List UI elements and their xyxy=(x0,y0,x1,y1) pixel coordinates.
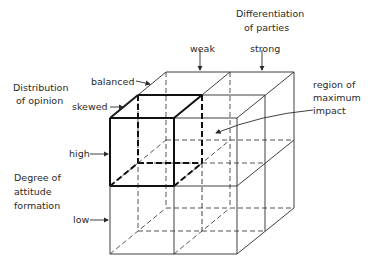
z-level-balanced: balanced xyxy=(91,76,134,88)
z-axis-title: Distribution xyxy=(13,82,68,94)
y-level-low: low xyxy=(73,214,89,226)
x-axis-title: Differentiation xyxy=(236,8,304,20)
cube-diagram xyxy=(0,0,368,267)
annotation-line3: impact xyxy=(313,105,346,117)
impact-arrow xyxy=(216,110,313,133)
x-axis-title-2: of parties xyxy=(244,22,289,34)
y-axis-title: Degree of xyxy=(14,172,61,184)
annotation-line2: maximum xyxy=(313,92,361,104)
y-axis-title-2: attitude xyxy=(14,186,52,198)
y-level-high: high xyxy=(69,148,90,160)
z-level-skewed: skewed xyxy=(72,101,108,113)
x-level-strong: strong xyxy=(250,43,280,55)
annotation-line1: region of xyxy=(313,79,355,91)
z-axis-title-2: of opinion xyxy=(16,95,63,107)
x-level-weak: weak xyxy=(190,43,215,55)
y-axis-title-3: formation xyxy=(14,200,60,212)
highlighted-cell xyxy=(110,95,202,186)
right-face-grid xyxy=(202,72,294,254)
